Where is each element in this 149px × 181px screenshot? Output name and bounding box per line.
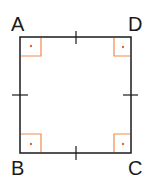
vertex-label-d: D bbox=[128, 14, 142, 34]
right-angle-c bbox=[114, 134, 130, 152]
right-angle-dot-d bbox=[122, 46, 124, 48]
vertex-label-a: A bbox=[11, 14, 24, 34]
right-angle-dot-a bbox=[30, 45, 32, 47]
vertex-label-b: B bbox=[11, 158, 24, 178]
right-angle-dot-b bbox=[30, 143, 32, 145]
right-angle-dot-c bbox=[122, 143, 124, 145]
vertex-label-c: C bbox=[128, 158, 142, 178]
